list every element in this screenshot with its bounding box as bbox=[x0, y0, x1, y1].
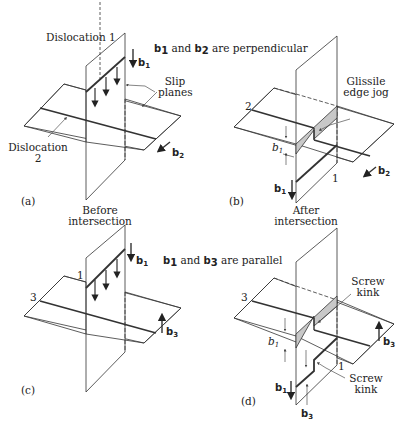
b1-subscript: 1 bbox=[145, 62, 150, 70]
vertical-slip-plane bbox=[86, 33, 125, 200]
label-b1-b: b1 bbox=[274, 183, 286, 198]
b3db-sub: 3 bbox=[308, 413, 313, 421]
par-post: are parallel bbox=[218, 254, 283, 266]
panel-c bbox=[24, 225, 181, 392]
kink-top-line2: kink bbox=[348, 287, 388, 298]
label-dislocation-1: Dislocation 1 bbox=[46, 32, 116, 43]
b1gapd-letter: b bbox=[268, 335, 275, 347]
label-b3-c: b3 bbox=[166, 326, 178, 341]
panel-label-a: (a) bbox=[21, 196, 35, 207]
label-b1-c: b1 bbox=[136, 255, 148, 270]
b1d-sub: 1 bbox=[282, 387, 287, 395]
caption-before: Beforeintersection bbox=[64, 205, 136, 227]
b3dr-sub: 3 bbox=[390, 341, 395, 349]
label-line-3-d: 3 bbox=[241, 292, 248, 303]
before-line2: intersection bbox=[64, 216, 136, 227]
b1gapd-sub: 1 bbox=[275, 341, 279, 349]
b1b-sub: 1 bbox=[281, 188, 286, 196]
label-screw-kink-top: Screwkink bbox=[348, 276, 388, 298]
label-b2-b: b2 bbox=[378, 165, 390, 180]
after-line2: intersection bbox=[270, 216, 342, 227]
caption-after: Afterintersection bbox=[270, 205, 342, 227]
panel-b bbox=[234, 36, 394, 203]
label-line-1-d: 1 bbox=[338, 361, 345, 372]
label-dislocation-2: Dislocation2 bbox=[8, 142, 68, 164]
label-screw-kink-bottom: Screwkink bbox=[346, 373, 386, 395]
slip-line2: planes bbox=[158, 87, 192, 98]
disl2-line2: 2 bbox=[8, 153, 68, 164]
label-glissile-edge-jog: Glissileedge jog bbox=[343, 76, 389, 98]
label-b3-d-right: b3 bbox=[383, 336, 395, 351]
label-line-1-b: 1 bbox=[332, 173, 339, 184]
cap-b2: b bbox=[195, 43, 202, 54]
b3c-sub: 3 bbox=[173, 331, 178, 339]
par-and: and bbox=[177, 254, 203, 266]
label-b1-gap-b: b1 bbox=[272, 142, 283, 157]
panel-label-d: (d) bbox=[241, 396, 256, 407]
caption-parallel: b1 and b3 are parallel bbox=[163, 255, 282, 268]
cap-sub2: 2 bbox=[202, 45, 209, 56]
label-b1-d: b1 bbox=[275, 382, 287, 397]
b2b-sub: 2 bbox=[385, 170, 390, 178]
kink-bottom-line2: kink bbox=[346, 384, 386, 395]
b1c-sub: 1 bbox=[143, 260, 148, 268]
b1gap-letter: b bbox=[272, 141, 279, 153]
cap-post: are perpendicular bbox=[209, 42, 308, 54]
panel-label-c: (c) bbox=[21, 385, 35, 396]
diagram-canvas bbox=[0, 0, 408, 429]
label-b3-d-bottom: b3 bbox=[301, 408, 313, 423]
label-b1-gap-d: b1 bbox=[268, 336, 279, 351]
label-line-2-b: 2 bbox=[245, 101, 252, 112]
label-b1-a: b1 bbox=[138, 57, 150, 72]
panel-label-b: (b) bbox=[229, 196, 244, 207]
label-slip-planes: Slipplanes bbox=[158, 76, 192, 98]
label-b2-a: b2 bbox=[172, 147, 184, 162]
b1gap-sub: 1 bbox=[279, 147, 283, 155]
par-sub2: 3 bbox=[211, 257, 218, 268]
b2-subscript: 2 bbox=[179, 152, 184, 160]
label-line-3-c: 3 bbox=[30, 292, 37, 303]
par-b3: b bbox=[204, 255, 211, 266]
cap-and: and bbox=[168, 42, 194, 54]
label-line-1-c: 1 bbox=[77, 270, 84, 281]
jog-line2: edge jog bbox=[343, 87, 389, 98]
caption-perpendicular: b1 and b2 are perpendicular bbox=[154, 43, 308, 56]
